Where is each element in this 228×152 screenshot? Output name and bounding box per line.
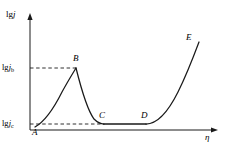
y-axis-label-var: j bbox=[13, 9, 16, 19]
y-tick-label-lg-jc: lgjc bbox=[2, 119, 14, 128]
curve-segment-de bbox=[146, 42, 199, 124]
y-axis-arrow-icon bbox=[27, 13, 32, 20]
point-label-a: A bbox=[32, 128, 38, 137]
x-axis-label: η bbox=[205, 133, 209, 142]
tick-lg-jb-sub: b bbox=[11, 66, 14, 73]
curve-segment-ab bbox=[35, 68, 76, 127]
y-axis-label-prefix: lg bbox=[6, 9, 13, 19]
tick-lg-jb-prefix: lg bbox=[2, 62, 9, 72]
point-label-b: B bbox=[73, 54, 79, 63]
y-tick-label-lg-jb: lgjb bbox=[2, 63, 14, 72]
point-label-e: E bbox=[186, 33, 192, 42]
polarization-curve-figure: lgj η lgjb lgjc A B C D E bbox=[0, 0, 228, 152]
tick-lg-jc-prefix: lg bbox=[2, 118, 9, 128]
point-label-c: C bbox=[99, 111, 105, 120]
point-label-d: D bbox=[141, 111, 148, 120]
tick-lg-jc-sub: c bbox=[11, 122, 14, 129]
y-axis-label: lgj bbox=[6, 10, 16, 19]
x-axis-arrow-icon bbox=[211, 127, 218, 132]
